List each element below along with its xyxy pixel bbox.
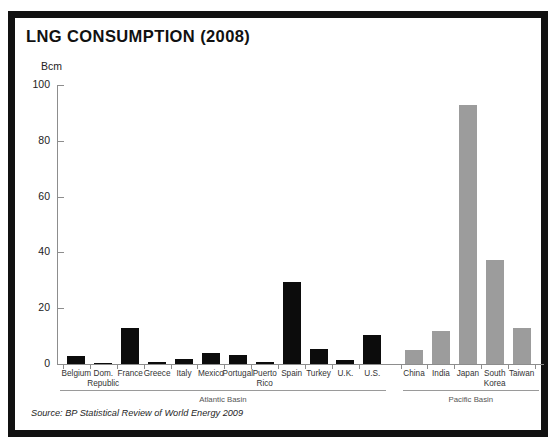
bar — [363, 335, 381, 364]
group-rule — [403, 390, 540, 391]
bar — [310, 349, 328, 364]
y-axis-tick — [57, 85, 64, 86]
x-axis-label-line: Taiwan — [509, 369, 535, 378]
group-label: Pacific Basin — [403, 395, 540, 404]
group-label: Atlantic Basin — [60, 395, 386, 404]
bar — [283, 282, 301, 364]
page-title: LNG CONSUMPTION (2008) — [26, 27, 250, 46]
chart-figure: LNG CONSUMPTION (2008) Bcm 020406080100 … — [0, 0, 556, 448]
y-axis-tick-label: 0 — [16, 357, 50, 369]
x-axis-label-line: U.S. — [364, 369, 380, 378]
bar — [432, 331, 450, 364]
bar — [256, 362, 274, 364]
group-rule — [60, 390, 386, 391]
bar — [513, 328, 531, 364]
y-axis-line — [57, 85, 58, 365]
y-axis-tick-label: 100 — [16, 78, 50, 90]
bar — [175, 359, 193, 364]
y-axis-tick — [57, 252, 64, 253]
bar — [67, 356, 85, 364]
bar — [486, 260, 504, 364]
source-note: Source: BP Statistical Review of World E… — [31, 408, 243, 418]
bar — [336, 360, 354, 364]
y-axis-tick-label: 80 — [16, 134, 50, 146]
x-axis-label: Taiwan — [498, 369, 546, 379]
plot-sheet: LNG CONSUMPTION (2008) Bcm 020406080100 … — [0, 0, 556, 448]
y-axis-tick — [57, 308, 64, 309]
y-axis-unit-label: Bcm — [41, 60, 62, 72]
y-axis-tick — [57, 197, 64, 198]
bar — [121, 328, 139, 364]
bar — [202, 353, 220, 364]
y-axis-tick-label: 40 — [16, 245, 50, 257]
y-axis-tick — [57, 141, 64, 142]
x-axis-label-line: Republic — [87, 379, 119, 388]
bar — [148, 362, 166, 364]
x-axis-label-line: Rico — [257, 379, 273, 388]
bar — [459, 105, 477, 364]
x-axis-baseline — [57, 364, 544, 365]
bar — [94, 363, 112, 364]
x-axis-label-line: Korea — [484, 379, 506, 388]
y-axis-tick-label: 20 — [16, 301, 50, 313]
bar — [229, 355, 247, 364]
bar — [405, 350, 423, 364]
y-axis-tick-label: 60 — [16, 190, 50, 202]
